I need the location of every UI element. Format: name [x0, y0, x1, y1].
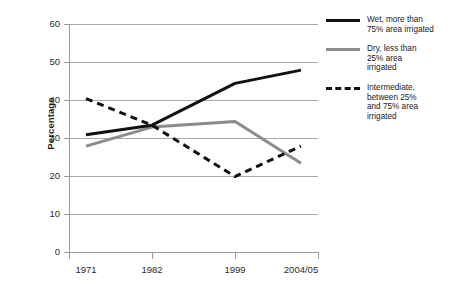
legend-label-intermediate-line1: Intermediate, — [367, 83, 415, 92]
legend-item-intermediate: Intermediate, between 25% and 75% area i… — [326, 82, 454, 121]
series-line-dry — [86, 121, 301, 163]
y-tick-label-50: 50 — [30, 56, 60, 67]
legend-label-intermediate: Intermediate, between 25% and 75% area i… — [367, 82, 418, 121]
legend-label-intermediate-line2: between 25% — [367, 93, 417, 102]
x-tick-label-1971: 1971 — [56, 264, 116, 275]
y-tick-label-10: 10 — [30, 208, 60, 219]
legend-item-dry: Dry, less than 25% area irrigated — [326, 43, 454, 73]
gridlines — [69, 25, 318, 215]
y-tick-label-60: 60 — [30, 18, 60, 29]
irrigation-percentage-line-chart: Percentage 60 50 40 30 20 10 0 1971 1982… — [0, 0, 456, 302]
x-tick-marks — [70, 252, 319, 259]
y-tick-label-30: 30 — [30, 132, 60, 143]
legend-label-dry-line2: 25% area — [367, 54, 402, 63]
chart-legend: Wet, more than 75% area irrigated Dry, l… — [326, 14, 454, 130]
x-tick-label-1999: 1999 — [205, 264, 265, 275]
legend-label-dry-line3: irrigated — [367, 63, 397, 72]
solid-gray-line-icon — [326, 43, 360, 55]
legend-label-intermediate-line4: irrigated — [367, 112, 397, 121]
dashed-black-line-icon — [326, 82, 360, 94]
x-tick-label-1982: 1982 — [122, 264, 182, 275]
solid-black-line-icon — [326, 14, 360, 26]
y-axis-title: Percentage — [45, 64, 56, 184]
legend-label-dry-line1: Dry, less than — [367, 44, 416, 53]
y-tick-label-20: 20 — [30, 170, 60, 181]
legend-label-wet-line2: 75% area irrigated — [367, 25, 434, 34]
legend-item-wet: Wet, more than 75% area irrigated — [326, 14, 454, 34]
legend-label-dry: Dry, less than 25% area irrigated — [367, 43, 416, 73]
y-tick-label-40: 40 — [30, 94, 60, 105]
y-tick-marks — [64, 25, 69, 253]
legend-label-intermediate-line3: and 75% area — [367, 102, 418, 111]
y-tick-label-0: 0 — [30, 246, 60, 257]
legend-label-wet: Wet, more than 75% area irrigated — [367, 14, 434, 34]
x-tick-label-2004-05: 2004/05 — [271, 264, 331, 275]
legend-label-wet-line1: Wet, more than — [367, 15, 423, 24]
